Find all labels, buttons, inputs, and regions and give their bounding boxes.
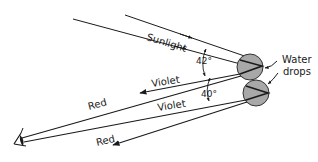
water-label-line1: Water <box>282 54 312 65</box>
pointer-arrow-upper <box>265 61 277 68</box>
rainbow-diagram: 42° 40° Water drops Sunlight Violet Red … <box>0 0 318 162</box>
lower-drop-rays <box>24 100 247 145</box>
eye-pupil <box>20 135 24 146</box>
water-drops <box>237 54 269 106</box>
red-lower-label: Red <box>95 133 116 148</box>
red-upper-label: Red <box>87 96 108 112</box>
sunlight-arrow-upper <box>180 34 192 38</box>
eye-lash <box>21 128 23 133</box>
violet-lower-label: Violet <box>157 98 187 113</box>
water-label-line2: drops <box>283 66 311 77</box>
water-drops-pointer: Water drops <box>265 54 312 84</box>
diagram-canvas: 42° 40° Water drops Sunlight Violet Red … <box>0 0 318 162</box>
angle-label-42: 42° <box>196 56 212 66</box>
ray-labels: Sunlight Violet Red Violet Red <box>87 31 188 148</box>
angle-label-40: 40° <box>201 89 217 99</box>
pointer-arrow-lower <box>268 73 278 84</box>
